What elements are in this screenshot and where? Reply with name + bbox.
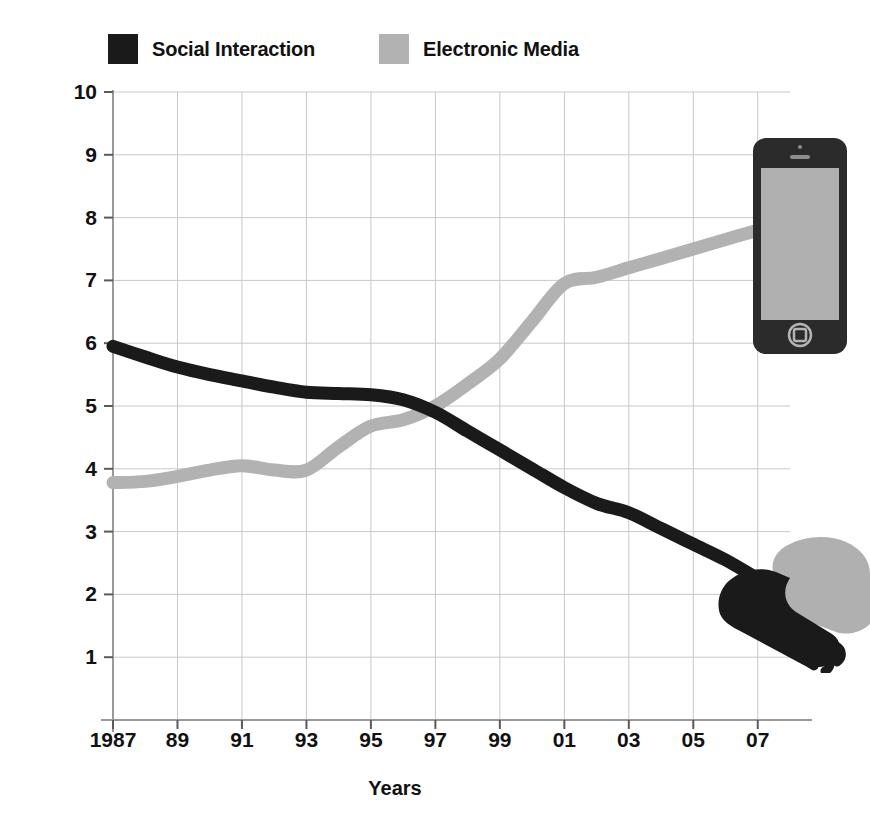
grid-lines xyxy=(113,92,790,720)
axis-lines xyxy=(101,90,812,732)
handshake-illustration xyxy=(712,528,870,673)
chart-figure: Social Interaction Electronic Media Hour… xyxy=(0,0,870,825)
plot-area xyxy=(0,0,870,825)
smartphone-illustration xyxy=(752,137,848,355)
